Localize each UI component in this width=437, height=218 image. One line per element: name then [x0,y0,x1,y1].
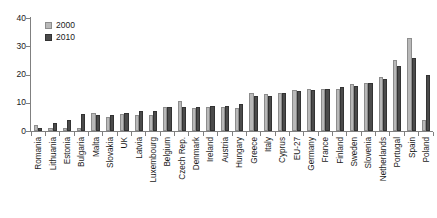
x-axis-label-cell: Netherlands [376,137,390,217]
x-axis-tick [31,132,45,136]
x-axis-label: Poland [421,137,430,163]
x-axis-tick [333,132,347,136]
legend-item-2000: 2000 [45,20,75,31]
bar-2010 [153,111,157,131]
bar-group [189,18,203,131]
x-axis-label: Denmark [192,137,201,170]
bar-group [419,18,433,131]
x-axis-label: Netherlands [378,137,387,181]
bar-group [333,18,347,131]
bar-2010 [67,120,71,131]
x-axis-tick [275,132,289,136]
bar-group [275,18,289,131]
x-axis-label-cell: Latvia [132,137,146,217]
bar-group [103,18,117,131]
x-axis-tick [160,132,174,136]
x-axis-label: Lithuania [48,137,57,170]
bar-group [304,18,318,131]
bar-group [160,18,174,131]
x-axis-label-cell: Portugal [390,137,404,217]
x-axis-tick [261,132,275,136]
bar-group [347,18,361,131]
x-axis-tick [304,132,318,136]
bar-group [289,18,303,131]
x-axis-tick [232,132,246,136]
x-axis-label: Finland [335,137,344,164]
x-axis-tick [376,132,390,136]
x-axis-label: France [321,137,330,162]
x-axis-label: UK [120,137,129,148]
bar-group [146,18,160,131]
x-axis-tick [361,132,375,136]
x-axis-tick [146,132,160,136]
bar-2010 [311,90,315,131]
x-axis-label-cell: France [318,137,332,217]
bar-group [203,18,217,131]
bar-group [361,18,375,131]
x-axis-label: Spain [407,137,416,158]
bar-2010 [38,128,42,131]
bar-group [232,18,246,131]
x-axis-label: Malta [91,137,100,157]
bar-2010 [254,96,258,131]
x-axis-tick [246,132,260,136]
bar-2010 [53,123,57,131]
bar-group [88,18,102,131]
x-axis-tick [74,132,88,136]
x-axis-label: EU-27 [292,137,301,160]
bar-2010 [96,115,100,131]
y-axis-tick-label: 40 [0,14,26,22]
x-axis-label-cell: Bulgaria [74,137,88,217]
x-axis-label-cell: Estonia [60,137,74,217]
y-axis-tick-label: 20 [0,70,26,78]
x-axis-label-cell: Germany [304,137,318,217]
bar-group [376,18,390,131]
bar-group [218,18,232,131]
x-axis-label: Czech Rep. [177,137,186,180]
bar-group [404,18,418,131]
plot-area [31,18,433,131]
x-axis-label-cell: Luxembourg [146,137,160,217]
grouped-bar-chart: 010203040 RomaniaLithuaniaEstoniaBulgari… [0,0,437,218]
x-axis-tick [60,132,74,136]
bar-2010 [268,96,272,131]
x-axis-label-cell: Czech Rep. [175,137,189,217]
bar-2010 [239,104,243,131]
x-axis-tick [88,132,102,136]
bar-2010 [297,91,301,131]
x-axis-tick [218,132,232,136]
y-axis-tick-label: 30 [0,42,26,50]
bar-groups [31,18,433,131]
x-axis-label-cell: Belgium [160,137,174,217]
bar-2010 [167,107,171,131]
x-axis-tick [289,132,303,136]
x-axis-tick [318,132,332,136]
x-axis-label: Germany [307,137,316,171]
bar-2010 [182,107,186,131]
bar-2010 [81,114,85,131]
x-axis-label-cell: Italy [261,137,275,217]
bar-2010 [354,86,358,131]
x-axis-label-cell: Spain [404,137,418,217]
x-axis-label-cell: Cyprus [275,137,289,217]
bar-2010 [110,115,114,131]
bar-2010 [210,106,214,131]
bar-group [31,18,45,131]
bar-2010 [282,93,286,131]
bar-2010 [225,106,229,131]
x-axis-label: Latvia [134,137,143,159]
x-axis-label: Slovenia [364,137,373,168]
x-axis-label: Greece [249,137,258,164]
x-axis-label: Slovakia [105,137,114,168]
x-axis-tick [175,132,189,136]
x-axis-label: Cyprus [278,137,287,163]
x-axis-label-cell: UK [117,137,131,217]
x-axis-label: Sweden [350,137,359,167]
x-axis-label: Portugal [393,137,402,168]
bar-group [246,18,260,131]
x-axis-label: Belgium [163,137,172,167]
x-axis-tick [203,132,217,136]
bar-group [132,18,146,131]
bar-group [175,18,189,131]
legend-swatch-2000-icon [45,22,52,29]
